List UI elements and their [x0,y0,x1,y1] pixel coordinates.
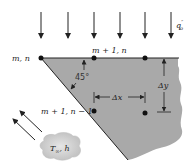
node-m1-n [92,56,97,61]
node-label-m-n: m, n [12,54,30,63]
dx-label: Δx [111,93,123,102]
angle-label: 45° [75,73,89,82]
node-m-n [39,56,44,61]
heat-flux-label: q″o [176,19,183,31]
heat-flux-arrows [41,12,171,38]
corner-node-diagram: q″o m, n m + 1, n m + 1, n − 1 45° Δx Δy… [0,0,192,167]
node-m2-n1 [143,111,148,116]
convection-label: T∞, h [50,144,70,154]
dy-label: Δy [157,81,169,90]
node-label-m1-n1: m + 1, n − 1 [41,107,93,116]
node-label-m1-n: m + 1, n [92,46,127,55]
node-m2-n [143,56,148,61]
